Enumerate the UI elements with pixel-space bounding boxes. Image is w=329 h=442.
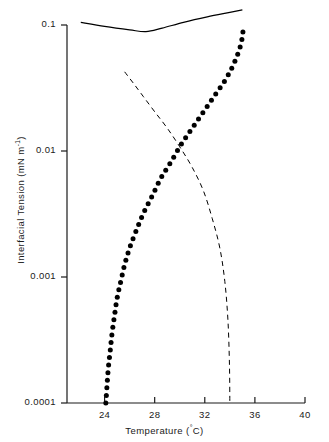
data-point-marker [218,85,223,90]
data-point-marker [239,37,244,42]
x-tick-label: 28 [135,409,175,420]
x-tick-label: 36 [235,409,275,420]
y-axis-title-text: Interfacial Tension (mN m [15,146,26,264]
data-point-marker [163,168,168,173]
data-point-marker [213,91,218,96]
data-point-marker [118,280,123,285]
figure-root: 0.10.010.0010.0001 2428323640 Temperatur… [0,0,329,442]
x-tick-label: 40 [285,409,325,420]
plot-canvas [0,0,329,442]
data-point-marker [183,135,188,140]
x-tick-label: 24 [85,409,125,420]
data-point-marker [238,44,243,49]
data-point-marker [142,208,147,213]
data-point-marker [121,265,126,270]
data-point-marker [115,295,120,300]
data-point-marker [114,302,119,307]
x-axis-title-text: Temperature ( [125,425,189,436]
series-dotted-rising-curve [103,30,245,406]
data-point-marker [232,59,237,64]
data-point-marker [226,72,231,77]
data-point-marker [103,401,108,406]
tick-marks [61,25,305,403]
data-point-marker [111,317,116,322]
data-point-marker [235,52,240,57]
data-point-marker [171,155,176,160]
data-point-marker [240,30,245,35]
data-series-layer [81,10,246,406]
y-axis-title: Interfacial Tension (mN m-1) [14,100,26,300]
data-point-marker [192,123,197,128]
data-point-marker [152,188,157,193]
data-point-marker [116,287,121,292]
y-axis-exponent: -1 [14,140,21,147]
x-axis-title: Temperature (°C) [0,424,329,436]
data-point-marker [133,229,138,234]
data-point-marker [167,161,172,166]
data-point-marker [149,195,154,200]
y-tick-label: 0.1 [0,18,56,29]
data-point-marker [123,258,128,263]
data-point-marker [156,181,161,186]
data-point-marker [222,79,227,84]
data-point-marker [104,385,109,390]
data-point-marker [128,243,133,248]
y-axis-title-end: ) [15,136,26,140]
data-point-marker [175,148,180,153]
data-point-marker [209,98,214,103]
data-point-marker [229,66,234,71]
data-point-marker [131,236,136,241]
data-point-marker [139,215,144,220]
y-tick-label: 0.01 [0,144,56,155]
x-tick-label: 32 [185,409,225,420]
data-point-marker [108,348,113,353]
y-tick-label: 0.0001 [0,396,56,407]
series-upper-solid-curve [81,10,243,32]
data-point-marker [107,355,112,360]
data-point-marker [109,332,114,337]
data-point-marker [205,104,210,109]
y-tick-label: 0.001 [0,270,56,281]
data-point-marker [106,363,111,368]
data-point-marker [105,370,110,375]
x-axis-title-unit: C) [193,425,204,436]
data-point-marker [109,340,114,345]
data-point-marker [136,222,141,227]
data-point-marker [110,325,115,330]
data-point-marker [187,129,192,134]
data-point-marker [159,174,164,179]
data-point-marker [196,116,201,121]
series-dashed-falling-curve [125,72,230,403]
data-point-marker [105,378,110,383]
data-point-marker [104,393,109,398]
data-point-marker [200,110,205,115]
data-point-marker [120,273,125,278]
data-point-marker [126,250,131,255]
axis-lines [67,25,305,403]
data-point-marker [146,201,151,206]
data-point-marker [112,310,117,315]
